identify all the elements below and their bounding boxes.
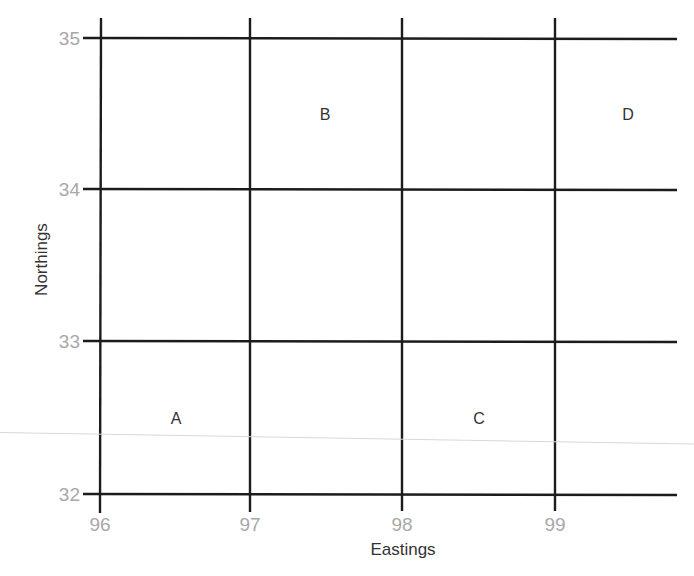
gridline-northing-35 [83, 38, 677, 39]
y-axis-title: Northings [33, 200, 50, 320]
y-tick-35: 35 [40, 29, 80, 48]
y-tick-34: 34 [40, 180, 80, 199]
gridline-northing-34 [83, 189, 677, 190]
square-label-d: D [618, 107, 638, 123]
square-label-c: C [469, 411, 489, 427]
x-tick-98: 98 [382, 515, 422, 534]
y-tick-33: 33 [40, 332, 80, 351]
y-tick-32: 32 [40, 485, 80, 504]
x-tick-96: 96 [80, 515, 120, 534]
grid-lines [0, 0, 694, 576]
gridline-northing-33 [83, 341, 677, 342]
gridline-easting-96 [100, 18, 101, 513]
gridline-northing-32 [83, 494, 677, 495]
x-axis-title: Eastings [343, 541, 463, 558]
x-tick-97: 97 [230, 515, 270, 534]
x-tick-99: 99 [535, 515, 575, 534]
square-label-b: B [315, 107, 335, 123]
square-label-a: A [166, 411, 186, 427]
